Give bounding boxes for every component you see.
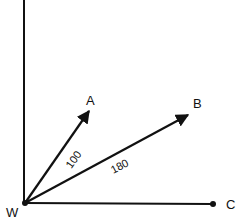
label-b: B <box>193 97 202 110</box>
label-w: W <box>6 206 18 219</box>
vector-diagram: A B C W 100 180 <box>0 0 237 223</box>
origin-w-dot <box>22 200 28 206</box>
vector-w-c <box>24 203 212 204</box>
point-c-dot <box>210 201 216 207</box>
vector-w-b-arrow <box>25 115 188 203</box>
diagram-lines <box>0 0 237 223</box>
label-c: C <box>226 198 235 211</box>
label-a: A <box>86 94 95 107</box>
